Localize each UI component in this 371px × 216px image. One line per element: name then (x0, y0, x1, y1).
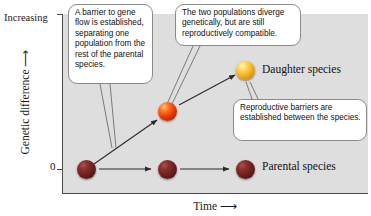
y-axis-increasing-label: Increasing (4, 12, 48, 23)
parental-species-point-2 (158, 160, 177, 179)
y-axis-zero-label: 0 (50, 160, 56, 172)
x-axis-title: Time ⟶ (62, 199, 368, 213)
daughter-species-point (236, 61, 255, 80)
y-axis-title: Genetic difference ⟶ (18, 37, 32, 167)
callout-reproductive-barriers: Reproductive barriers are established be… (233, 99, 367, 141)
x-axis-line (62, 193, 368, 194)
y-axis-tick-top (57, 14, 62, 15)
speciation-diagram: Increasing 0 Genetic difference ⟶ Time ⟶ (0, 0, 371, 216)
daughter-species-label: Daughter species (262, 63, 341, 75)
callout-populations-diverge: The two populations diverge genetically,… (175, 4, 301, 46)
y-axis-line (62, 14, 63, 194)
diverging-population-point (158, 102, 177, 121)
callout-barrier-to-gene-flow: A barrier to gene flow is established, s… (68, 4, 153, 84)
parental-species-label: Parental species (262, 160, 336, 172)
parental-species-point-1 (77, 160, 96, 179)
parental-species-point-3 (236, 160, 255, 179)
y-axis-tick-zero (57, 169, 62, 170)
